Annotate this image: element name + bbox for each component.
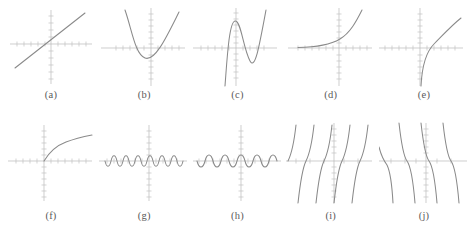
curve-b <box>125 10 179 58</box>
panel-label-c: (c) <box>231 90 243 101</box>
panel-label-e: (e) <box>418 90 430 101</box>
panel-label-j: (j) <box>419 211 430 222</box>
panel-label-f: (f) <box>45 211 56 222</box>
panel-a: (a) <box>6 0 96 101</box>
plot-e <box>379 0 469 88</box>
axes-b <box>101 8 185 86</box>
panel-label-d: (d) <box>324 90 337 101</box>
panel-h: (h) <box>193 121 283 222</box>
panel-row-bottom: (f) <box>0 121 475 242</box>
curve-d <box>298 10 362 47</box>
panel-label-i: (i) <box>325 211 336 222</box>
plot-b <box>99 0 189 88</box>
panel-b: (b) <box>99 0 189 101</box>
curve-e <box>421 18 461 86</box>
panel-label-h: (h) <box>231 211 244 222</box>
axes-h <box>193 125 281 201</box>
panel-c: (c) <box>193 0 283 101</box>
panel-j: (j) <box>379 121 469 222</box>
panel-i: (i) <box>286 121 376 222</box>
plot-f <box>6 121 96 209</box>
panel-label-g: (g) <box>138 211 151 222</box>
plot-c <box>193 0 283 88</box>
function-graph-figure: (a) <box>0 0 475 243</box>
axes-a <box>10 10 92 84</box>
curve-i <box>288 125 368 203</box>
axes-e <box>379 8 463 86</box>
plot-g <box>99 121 189 209</box>
plot-j <box>379 121 469 209</box>
panel-label-a: (a) <box>45 90 57 101</box>
panel-row-top: (a) <box>0 0 475 121</box>
panel-label-b: (b) <box>138 90 151 101</box>
curve-a <box>15 13 85 68</box>
plot-i <box>286 121 376 209</box>
panel-g: (g) <box>99 121 189 222</box>
axes-f <box>8 125 92 201</box>
curve-f <box>44 135 92 161</box>
axes-g <box>99 125 187 201</box>
plot-a <box>6 0 96 88</box>
panel-d: (d) <box>286 0 376 101</box>
plot-d <box>286 0 376 88</box>
plot-h <box>193 121 283 209</box>
panel-e: (e) <box>379 0 469 101</box>
panel-f: (f) <box>6 121 96 222</box>
